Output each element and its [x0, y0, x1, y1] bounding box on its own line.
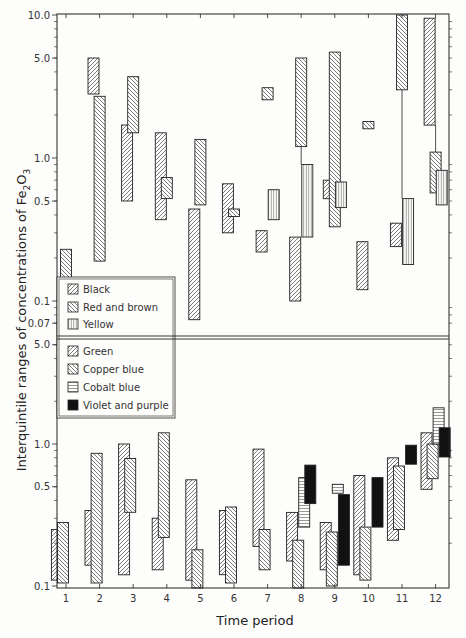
- x-axis: 123456789101112: [63, 584, 442, 604]
- range-bar-cobalt-blue: [332, 484, 343, 493]
- range-bar-red-and-brown: [128, 77, 139, 133]
- legend-swatch-icon: [68, 284, 78, 294]
- x-tick-label: 1: [63, 593, 69, 604]
- range-bar-red-and-brown: [363, 122, 374, 129]
- range-bar-copper-blue: [293, 540, 304, 588]
- range-bar-copper-blue: [259, 530, 270, 570]
- x-tick-label: 12: [429, 593, 442, 604]
- range-bar-copper-blue: [58, 523, 69, 584]
- legend-swatch-icon: [68, 382, 78, 392]
- legend-label: Yellow: [82, 319, 114, 330]
- legend-swatch-icon: [68, 364, 78, 374]
- x-tick-label: 6: [231, 593, 237, 604]
- x-tick-label: 4: [164, 593, 170, 604]
- range-bar-black: [390, 223, 401, 246]
- range-bar-yellow: [268, 190, 279, 220]
- y-tick-label: 0.1: [34, 296, 50, 307]
- range-bar-red-and-brown: [161, 178, 172, 199]
- y-tick-label: 10.0: [28, 10, 50, 21]
- range-bar-copper-blue: [427, 444, 438, 479]
- y-tick-label: 0.07: [28, 318, 50, 329]
- range-bar-black: [155, 133, 166, 220]
- fe2o3-interquintile-chart: 10.05.01.00.50.10.07 5.01.00.50.1 BlackR…: [0, 0, 466, 638]
- range-bar-black: [222, 184, 233, 233]
- range-bar-yellow: [302, 165, 313, 238]
- legend-swatch-icon: [68, 302, 78, 312]
- y-tick-label: 0.5: [34, 196, 50, 207]
- legend-swatch-icon: [68, 346, 78, 356]
- range-bar-yellow: [335, 182, 346, 208]
- legend-swatch-icon: [68, 319, 78, 329]
- range-bar-copper-blue: [326, 532, 337, 586]
- range-bar-copper-blue: [394, 466, 405, 530]
- range-bar-yellow: [403, 199, 414, 265]
- legend-label: Red and brown: [83, 302, 158, 313]
- range-bar-copper-blue: [158, 433, 169, 538]
- range-bar-red-and-brown: [94, 96, 105, 261]
- range-bar-violet-and-purple: [372, 478, 383, 527]
- legend-label: Cobalt blue: [83, 382, 140, 393]
- range-bar-black: [88, 58, 99, 94]
- range-bar-red-and-brown: [195, 139, 206, 205]
- x-tick-label: 7: [264, 593, 270, 604]
- range-bar-red-and-brown: [229, 209, 240, 217]
- range-bar-copper-blue: [226, 507, 237, 583]
- x-tick-label: 10: [362, 593, 375, 604]
- x-tick-label: 8: [298, 593, 304, 604]
- range-bar-copper-blue: [360, 527, 371, 580]
- x-tick-label: 9: [332, 593, 338, 604]
- legend-label: Violet and purple: [83, 400, 169, 411]
- y-tick-label: 1.0: [34, 153, 50, 164]
- legend-label: Copper blue: [83, 364, 144, 375]
- x-tick-label: 5: [197, 593, 203, 604]
- y-tick-label: 0.5: [34, 481, 50, 492]
- legend: BlackRed and brownYellowGreenCopper blue…: [57, 277, 175, 418]
- y-tick-label: 5.0: [34, 339, 50, 350]
- legend-label: Green: [83, 346, 113, 357]
- range-bar-red-and-brown: [397, 15, 408, 90]
- range-bar-violet-and-purple: [305, 465, 316, 504]
- y-tick-label: 0.1: [34, 581, 50, 592]
- range-bar-black: [290, 237, 301, 301]
- legend-label: Black: [83, 284, 110, 295]
- range-bar-black: [424, 18, 435, 125]
- range-bar-red-and-brown: [296, 58, 307, 147]
- range-bar-black: [256, 231, 267, 252]
- range-bar-copper-blue: [91, 453, 102, 583]
- range-bar-black: [189, 209, 200, 320]
- range-bar-violet-and-purple: [338, 495, 349, 566]
- range-bar-yellow: [436, 170, 447, 205]
- y-tick-label: 5.0: [34, 53, 50, 64]
- legend-swatch-icon: [68, 400, 78, 410]
- range-bar-black: [122, 125, 133, 201]
- x-tick-label: 3: [130, 593, 136, 604]
- range-bar-black: [357, 242, 368, 290]
- x-axis-title: Time period: [215, 613, 293, 628]
- range-bar-violet-and-purple: [406, 445, 417, 464]
- range-bar-red-and-brown: [262, 88, 273, 100]
- y-tick-label: 1.0: [34, 439, 50, 450]
- range-bar-copper-blue: [125, 459, 136, 513]
- range-bar-copper-blue: [192, 550, 203, 588]
- x-tick-label: 11: [396, 593, 409, 604]
- x-tick-label: 2: [96, 593, 102, 604]
